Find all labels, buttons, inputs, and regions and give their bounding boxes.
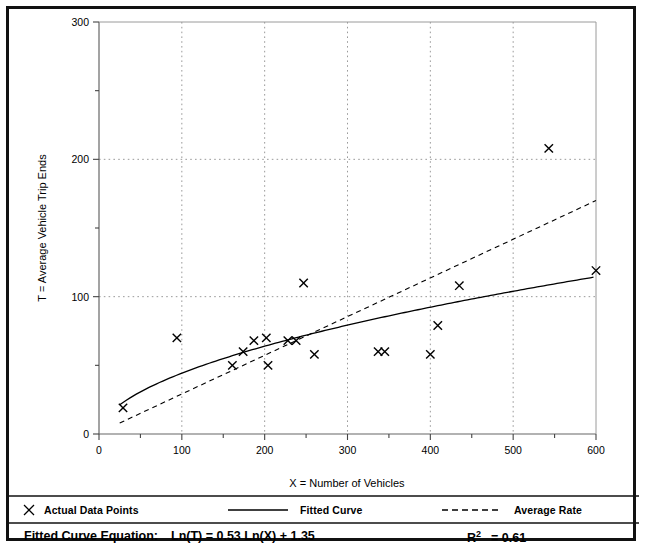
y-tick-label: 200	[71, 153, 89, 165]
r-squared-value: R2 = 0.61	[467, 529, 526, 545]
y-tick-label: 100	[71, 291, 89, 303]
x-tick-label: 600	[587, 444, 605, 456]
x-axis-title: X = Number of Vehicles	[289, 477, 405, 489]
y-tick-label: 0	[83, 428, 89, 440]
y-tick-label: 300	[71, 16, 89, 28]
legend-label-actual-data-points: Actual Data Points	[44, 504, 139, 516]
y-tick-labels: 0100200300	[71, 16, 89, 440]
legend-label-fitted-curve: Fitted Curve	[300, 504, 362, 516]
r-squared-exponent: 2	[476, 529, 481, 539]
plot-area-background	[99, 22, 596, 434]
equation-value: Ln(T) = 0.53 Ln(X) + 1.35	[171, 529, 315, 543]
y-axis-title: T = Average Vehicle Trip Ends	[36, 154, 48, 302]
equation-label: Fitted Curve Equation:	[24, 529, 158, 543]
x-tick-label: 100	[173, 444, 191, 456]
scatter-chart: 0100200300400500600 0100200300 X = Numbe…	[0, 0, 648, 553]
x-tick-label: 200	[256, 444, 274, 456]
x-tick-labels: 0100200300400500600	[96, 444, 605, 456]
x-tick-label: 0	[96, 444, 102, 456]
r-squared-equals: = 0.61	[491, 531, 526, 545]
x-tick-label: 400	[422, 444, 440, 456]
legend-marker-actual-data-points	[24, 505, 34, 515]
x-tick-label: 300	[339, 444, 357, 456]
fitted-curve-equation: Fitted Curve Equation: Ln(T) = 0.53 Ln(X…	[24, 529, 315, 543]
chart-page: 0100200300400500600 0100200300 X = Numbe…	[0, 0, 648, 553]
r-squared-base: R	[467, 531, 476, 545]
x-tick-label: 500	[504, 444, 522, 456]
legend-label-average-rate: Average Rate	[514, 504, 582, 516]
